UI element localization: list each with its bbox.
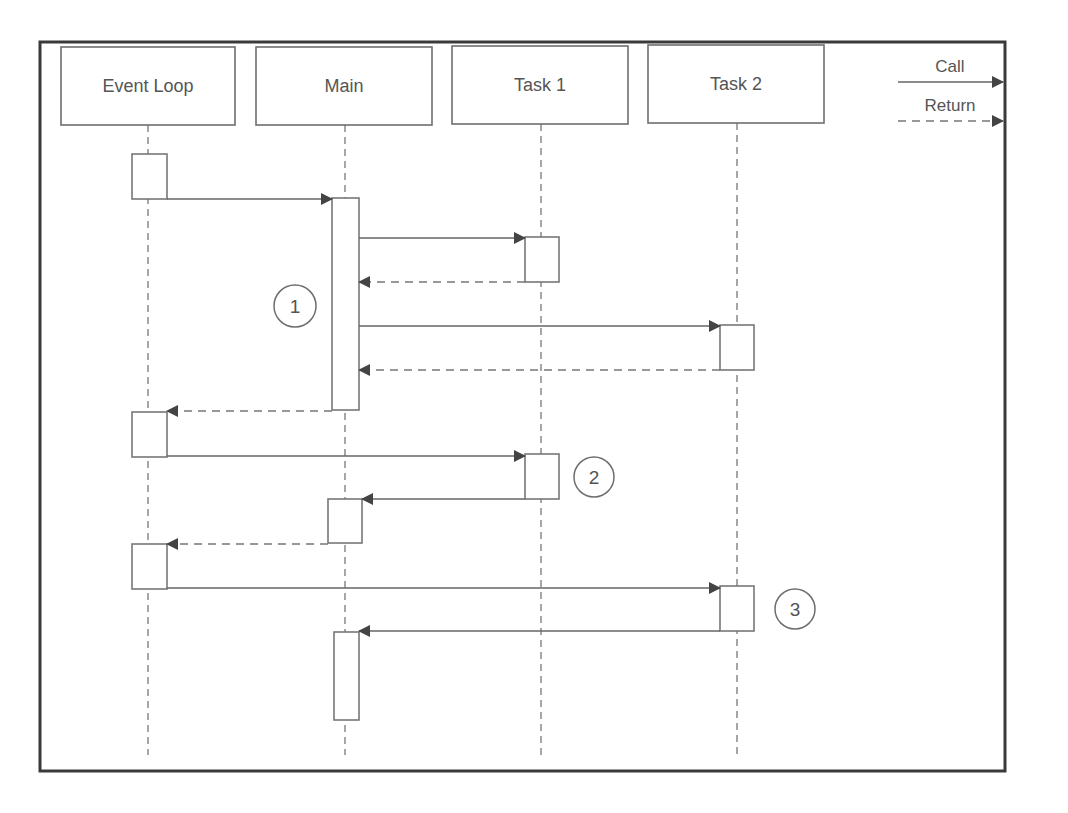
- activation-bar-task2: [720, 586, 754, 631]
- participant-task2: Task 2: [648, 45, 824, 123]
- step-badge-3: 3: [775, 589, 815, 629]
- legend-item-return: Return: [898, 96, 1003, 121]
- participant-event_loop: Event Loop: [61, 47, 235, 125]
- diagram-frame: [40, 42, 1005, 771]
- activation-bar-task2: [720, 325, 754, 370]
- activation-bar-main: [328, 499, 362, 543]
- participant-label: Task 1: [514, 75, 566, 95]
- legend-label: Call: [935, 57, 964, 76]
- activation-bar-event_loop: [132, 412, 167, 457]
- participant-label: Task 2: [710, 74, 762, 94]
- participant-task1: Task 1: [452, 46, 628, 124]
- step-number: 3: [790, 599, 801, 620]
- legend: CallReturn: [898, 57, 1003, 121]
- legend-label: Return: [924, 96, 975, 115]
- step-number: 1: [290, 296, 301, 317]
- messages: [167, 199, 720, 631]
- step-number: 2: [589, 467, 600, 488]
- participant-label: Event Loop: [102, 76, 193, 96]
- activation-bar-event_loop: [132, 154, 167, 199]
- participant-main: Main: [256, 47, 432, 125]
- sequence-diagram: Event LoopMainTask 1Task 2 123 CallRetur…: [0, 0, 1068, 813]
- activation-bar-main: [332, 198, 359, 410]
- participant-label: Main: [324, 76, 363, 96]
- activation-bar-task1: [525, 454, 559, 499]
- step-badge-1: 1: [274, 285, 316, 327]
- activation-bars: [132, 154, 754, 720]
- lifelines: [148, 123, 737, 755]
- legend-item-call: Call: [898, 57, 1003, 82]
- step-badge-2: 2: [574, 457, 614, 497]
- participant-headers: Event LoopMainTask 1Task 2: [61, 45, 824, 125]
- activation-bar-event_loop: [132, 544, 167, 589]
- activation-bar-task1: [525, 237, 559, 282]
- activation-bar-main: [334, 632, 359, 720]
